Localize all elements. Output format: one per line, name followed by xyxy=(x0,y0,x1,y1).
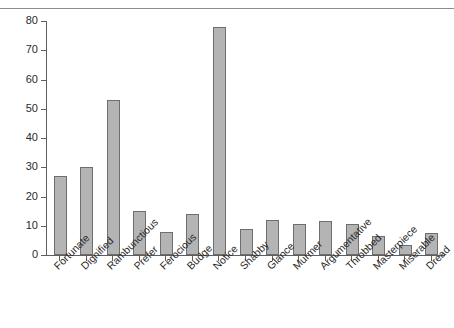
plot-area xyxy=(47,21,445,255)
y-axis-tick-label: 60 xyxy=(4,74,38,85)
y-axis-tick-label-wrap: 40 xyxy=(0,138,38,139)
y-axis-tick-label-wrap: 50 xyxy=(0,109,38,110)
y-axis-tick-label: 20 xyxy=(4,191,38,202)
y-axis-tick-label: 30 xyxy=(4,161,38,172)
y-axis-tick-label-wrap: 10 xyxy=(0,226,38,227)
y-axis-tick-label-wrap: 20 xyxy=(0,197,38,198)
bar xyxy=(213,27,226,255)
bar xyxy=(107,100,120,255)
y-axis-tick-label-wrap: 60 xyxy=(0,80,38,81)
y-axis-tick-label: 0 xyxy=(4,249,38,260)
y-axis-tick-label-wrap: 70 xyxy=(0,50,38,51)
y-axis-tick-label-wrap: 30 xyxy=(0,167,38,168)
y-axis-tick-label: 50 xyxy=(4,103,38,114)
y-axis-tick-label: 10 xyxy=(4,220,38,231)
y-axis-tick-label: 70 xyxy=(4,44,38,55)
bar xyxy=(54,176,67,255)
top-divider-rule xyxy=(0,8,454,9)
bar-chart-figure: 01020304050607080 FortunateDignifiedRamb… xyxy=(0,0,454,328)
y-axis-tick xyxy=(41,255,47,256)
y-axis-tick-label-wrap: 80 xyxy=(0,21,38,22)
y-axis-tick-label-wrap: 0 xyxy=(0,255,38,256)
y-axis-tick-label: 40 xyxy=(4,132,38,143)
y-axis-tick-label: 80 xyxy=(4,15,38,26)
